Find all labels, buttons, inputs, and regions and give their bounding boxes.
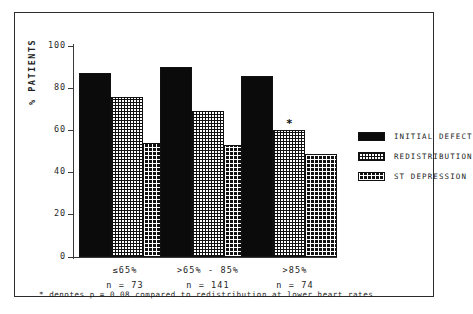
footnote: * denotes p = 0.08 compared to redistrib… xyxy=(39,290,373,299)
legend-label-st-depression: ST DEPRESSION xyxy=(394,172,467,181)
plot-area: * xyxy=(73,46,335,257)
legend-label-initial-defect: INITIAL DEFECT xyxy=(394,132,473,141)
bar-redistribution-group-2 xyxy=(192,111,224,257)
cross-hatch-swatch-icon xyxy=(358,152,385,161)
y-tick-label-100: 100 xyxy=(48,40,66,50)
group-caption-3: >85% n = 74 xyxy=(245,265,345,290)
x-axis-line xyxy=(73,257,337,258)
bar-initial-defect-group-3 xyxy=(241,76,273,258)
legend-item-redistribution: REDISTRIBUTION xyxy=(358,151,473,162)
legend-label-redistribution: REDISTRIBUTION xyxy=(394,152,473,161)
solid-black-swatch-icon xyxy=(358,132,385,141)
bar-initial-defect-group-2 xyxy=(160,67,192,257)
y-tick-label-40: 40 xyxy=(54,166,66,176)
legend: INITIAL DEFECT REDISTRIBUTION ST DEPRESS… xyxy=(358,131,473,191)
group-label-3: >85% xyxy=(283,265,308,275)
group-label-2: >65% - 85% xyxy=(177,265,239,275)
legend-item-initial-defect: INITIAL DEFECT xyxy=(358,131,473,142)
chart-frame: % PATIENTS 100 80 60 40 20 0 xyxy=(14,12,434,297)
group-count-3: n = 74 xyxy=(245,280,345,290)
y-axis-label: % PATIENTS xyxy=(27,39,37,105)
group-label-1: ≤65% xyxy=(113,265,138,275)
legend-item-st-depression: ST DEPRESSION xyxy=(358,171,473,182)
checker-dot-swatch-icon xyxy=(358,172,385,181)
y-tick-label-20: 20 xyxy=(54,208,66,218)
bar-redistribution-group-3 xyxy=(273,130,305,257)
y-tick-label-80: 80 xyxy=(54,82,66,92)
bar-redistribution-group-1 xyxy=(111,97,143,257)
significance-marker: * xyxy=(286,121,293,126)
y-tick-label-0: 0 xyxy=(60,251,66,261)
y-tick-label-60: 60 xyxy=(54,124,66,134)
bar-initial-defect-group-1 xyxy=(79,73,111,257)
bar-st-depression-group-3 xyxy=(305,154,337,257)
